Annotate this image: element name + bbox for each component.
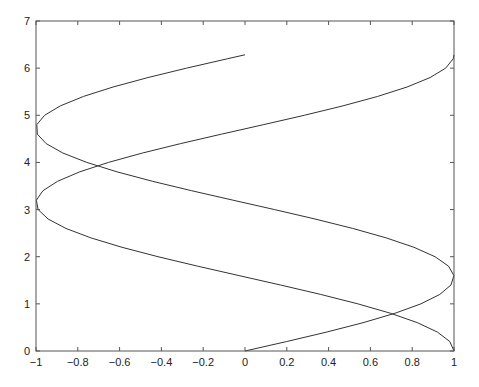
x-tick-label: 0.8 [405,356,420,368]
y-tick-label: 4 [24,156,30,168]
x-tick-label: −0.2 [192,356,214,368]
x-tick-label: −0.6 [109,356,131,368]
axes-frame [36,21,454,351]
y-tick-label: 6 [24,62,30,74]
x-tick-label: 0.4 [321,356,336,368]
x-tick-label: 0.2 [279,356,294,368]
y-tick-label: 3 [24,204,30,216]
x-tick-label: −1 [30,356,43,368]
x-tick-label: 1 [451,356,457,368]
y-axis: 01234567 [24,15,454,357]
plot-curves [36,55,454,351]
y-tick-label: 7 [24,15,30,27]
y-tick-label: 2 [24,251,30,263]
line-chart: −1−0.8−0.6−0.4−0.200.20.40.60.81 0123456… [0,0,479,387]
y-tick-label: 5 [24,109,30,121]
x-tick-label: −0.8 [67,356,89,368]
x-axis: −1−0.8−0.6−0.4−0.200.20.40.60.81 [30,21,457,368]
y-tick-label: 0 [24,345,30,357]
y-tick-label: 1 [24,298,30,310]
x-tick-label: 0.6 [363,356,378,368]
x-tick-label: −0.4 [151,356,173,368]
x-tick-label: 0 [242,356,248,368]
series-line-0 [37,55,454,351]
